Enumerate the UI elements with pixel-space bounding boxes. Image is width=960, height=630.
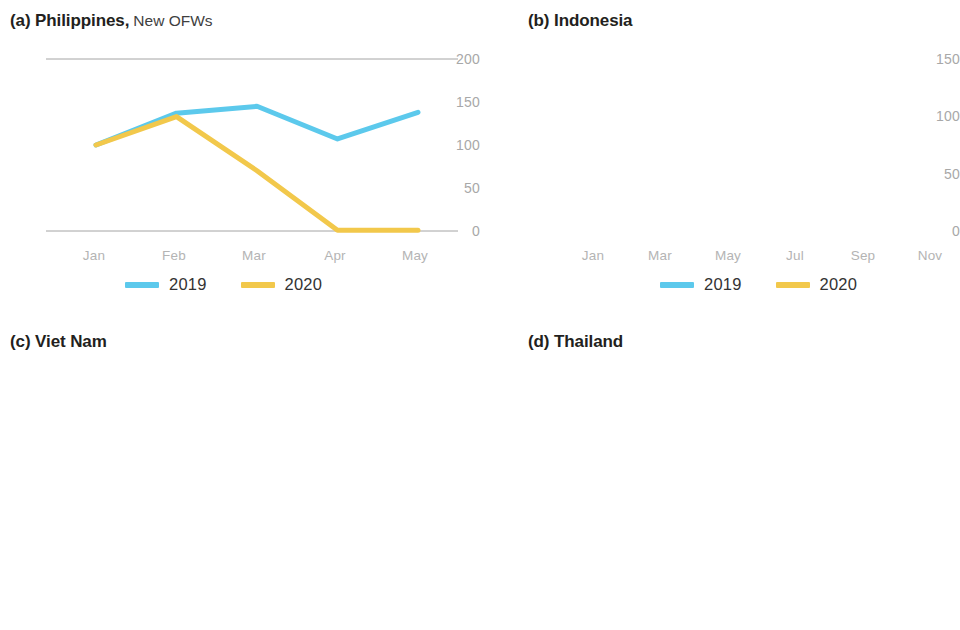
panel-c-title: (c) Viet Nam xyxy=(10,331,107,352)
panel-b-legend-label-2019: 2019 xyxy=(704,275,742,294)
panel-d-title: (d) Thailand xyxy=(528,331,623,352)
panel-b-title: (b) Indonesia xyxy=(528,10,632,31)
panel-a-xtick-may: May xyxy=(402,248,428,263)
panel-a-legend: 2019 2020 xyxy=(125,275,322,294)
legend-swatch-2020-icon xyxy=(776,282,810,288)
panel-c-title-main: (c) Viet Nam xyxy=(10,332,107,351)
panel-a-line-2020 xyxy=(96,117,418,231)
panel-b-legend-label-2020: 2020 xyxy=(820,275,858,294)
panel-b-ytick-150: 150 xyxy=(394,51,960,67)
panel-b-xtick-nov: Nov xyxy=(918,248,943,263)
legend-swatch-2019-icon xyxy=(125,282,159,288)
panel-indonesia: (b) Indonesia 150 100 50 0 Jan Mar May J… xyxy=(480,0,960,315)
panel-a-legend-label-2019: 2019 xyxy=(169,275,207,294)
panel-a-title: (a) Philippines,New OFWs xyxy=(10,10,213,31)
panel-viet-nam: (c) Viet Nam 140 120 100 80 60 40 20 0 Q… xyxy=(0,315,480,630)
panel-b-title-main: (b) Indonesia xyxy=(528,11,632,30)
panel-b-ytick-0: 0 xyxy=(394,223,960,239)
panel-b-xtick-jan: Jan xyxy=(582,248,604,263)
panel-a-legend-item-2019[interactable]: 2019 xyxy=(125,275,207,294)
panel-a-svg xyxy=(46,54,458,236)
panel-a-ytick-50: 50 xyxy=(442,180,480,196)
panel-b-xtick-jul: Jul xyxy=(786,248,804,263)
panel-a-legend-label-2020: 2020 xyxy=(285,275,323,294)
panel-b-ytick-50: 50 xyxy=(394,166,960,182)
panel-d-title-main: (d) Thailand xyxy=(528,332,623,351)
panel-b-xtick-sep: Sep xyxy=(851,248,876,263)
figure-migration-index-panels: (a) Philippines,New OFWs 200 150 100 50 … xyxy=(0,0,960,630)
panel-a-xtick-feb: Feb xyxy=(162,248,186,263)
legend-swatch-2019-icon xyxy=(660,282,694,288)
panel-a-title-main: (a) Philippines, xyxy=(10,11,129,30)
panel-a-plot xyxy=(46,54,458,236)
panel-a-xtick-jan: Jan xyxy=(83,248,105,263)
panel-a-title-subtitle: New OFWs xyxy=(133,12,212,29)
panel-b-ytick-100: 100 xyxy=(394,108,960,124)
panel-b-legend-item-2020[interactable]: 2020 xyxy=(776,275,858,294)
panel-thailand: (d) Thailand 350 300 250 200 150 100 50 … xyxy=(480,315,960,630)
panel-b-legend-item-2019[interactable]: 2019 xyxy=(660,275,742,294)
panel-b-xtick-mar: Mar xyxy=(648,248,672,263)
panel-a-xtick-mar: Mar xyxy=(242,248,266,263)
panel-philippines: (a) Philippines,New OFWs 200 150 100 50 … xyxy=(0,0,480,315)
panel-b-xtick-may: May xyxy=(715,248,741,263)
panel-a-xtick-apr: Apr xyxy=(324,248,346,263)
panel-a-ytick-100: 100 xyxy=(442,137,480,153)
legend-swatch-2020-icon xyxy=(241,282,275,288)
panel-a-legend-item-2020[interactable]: 2020 xyxy=(241,275,323,294)
panel-b-legend: 2019 2020 xyxy=(660,275,857,294)
